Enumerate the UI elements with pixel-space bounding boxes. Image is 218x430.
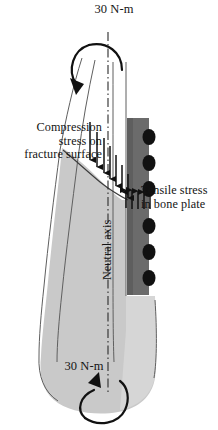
- neutral-axis-label: Neutral axis: [101, 205, 115, 295]
- compression-stress-label: Compression stress on fracture surface: [2, 121, 102, 162]
- torque-top-label: 30 N-m: [74, 2, 154, 16]
- screw-notch: [143, 129, 156, 145]
- torque-arrow-top: [70, 44, 122, 95]
- figure-root: 30 N-m Compression stress on fracture su…: [0, 0, 218, 430]
- screw-notch: [143, 155, 156, 171]
- screw-notch: [143, 244, 156, 260]
- torque-bottom-label: 30 N-m: [48, 359, 120, 373]
- tensile-stress-label: Tensile stress in bone plate: [141, 184, 218, 211]
- screw-notch: [143, 218, 156, 234]
- screw-notch: [143, 270, 156, 286]
